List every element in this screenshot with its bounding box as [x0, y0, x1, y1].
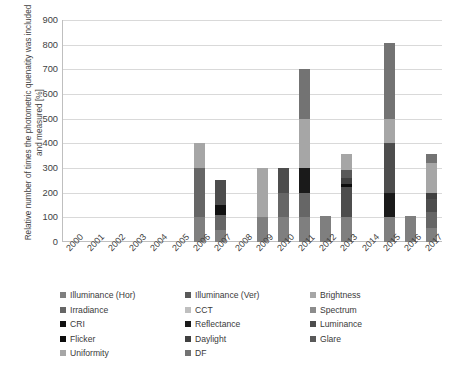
legend-item[interactable]: CCT [185, 305, 213, 315]
bar-segment[interactable] [426, 199, 437, 213]
bar-segment[interactable] [299, 168, 310, 193]
legend-label: Luminance [320, 319, 362, 329]
bar-segment[interactable] [384, 143, 395, 192]
legend-label: Irradiance [70, 305, 108, 315]
bar-segment[interactable] [194, 143, 205, 168]
legend-label: Glare [320, 334, 341, 344]
bar-segment[interactable] [426, 193, 437, 199]
bar-segment[interactable] [384, 119, 395, 144]
legend-label: CRI [70, 319, 85, 329]
legend-swatch-icon [60, 321, 66, 327]
bar-segment[interactable] [426, 154, 437, 163]
chart-legend: Illuminance (Hor)Illuminance (Ver)Bright… [60, 290, 445, 370]
legend-swatch-icon [185, 307, 191, 313]
y-tick-500: 500 [42, 114, 58, 124]
legend-swatch-icon [310, 307, 316, 313]
chart-root: Relative number of times the photometric… [0, 0, 451, 373]
legend-swatch-icon [310, 292, 316, 298]
y-tick-600: 600 [42, 89, 58, 99]
legend-swatch-icon [60, 292, 66, 298]
legend-swatch-icon [185, 336, 191, 342]
x-axis-tick-labels: 2000200120022003200420052006200720082009… [62, 244, 442, 286]
bar-segment[interactable] [341, 178, 352, 184]
bar-segment[interactable] [341, 184, 352, 186]
stacked-bar[interactable] [194, 143, 205, 242]
bar-segment[interactable] [194, 168, 205, 217]
legend-label: CCT [195, 305, 213, 315]
y-tick-800: 800 [42, 40, 58, 50]
legend-swatch-icon [310, 321, 316, 327]
bar-segment[interactable] [278, 193, 289, 218]
bar-segment[interactable] [299, 69, 310, 118]
stacked-bar[interactable] [341, 154, 352, 242]
bar-segment[interactable] [384, 193, 395, 218]
legend-label: Daylight [195, 334, 226, 344]
bar-series-container [62, 20, 442, 242]
y-tick-400: 400 [42, 138, 58, 148]
bar-segment[interactable] [299, 119, 310, 168]
y-tick-700: 700 [42, 64, 58, 74]
legend-label: Uniformity [70, 348, 109, 358]
y-tick-0: 0 [53, 237, 58, 247]
bar-segment[interactable] [426, 163, 437, 193]
stacked-bar[interactable] [384, 43, 395, 242]
legend-item[interactable]: Illuminance (Hor) [60, 290, 135, 300]
legend-item[interactable]: Flicker [60, 334, 95, 344]
bar-segment[interactable] [341, 154, 352, 170]
legend-swatch-icon [310, 336, 316, 342]
legend-item[interactable]: Luminance [310, 319, 362, 329]
legend-item[interactable]: DF [185, 348, 206, 358]
y-axis-tick-labels: 0100200300400500600700800900 [22, 14, 58, 248]
legend-item[interactable]: Illuminance (Ver) [185, 290, 259, 300]
legend-item[interactable]: Reflectance [185, 319, 240, 329]
legend-label: Illuminance (Hor) [70, 290, 135, 300]
legend-swatch-icon [185, 292, 191, 298]
bar-segment[interactable] [426, 212, 437, 228]
y-tick-300: 300 [42, 163, 58, 173]
stacked-bar[interactable] [426, 154, 437, 242]
bar-segment[interactable] [341, 170, 352, 177]
legend-item[interactable]: CRI [60, 319, 85, 329]
legend-label: DF [195, 348, 206, 358]
legend-swatch-icon [60, 336, 66, 342]
bar-segment[interactable] [257, 168, 268, 217]
bar-segment[interactable] [341, 187, 352, 218]
legend-item[interactable]: Glare [310, 334, 341, 344]
legend-label: Reflectance [195, 319, 240, 329]
y-tick-900: 900 [42, 15, 58, 25]
legend-label: Brightness [320, 290, 361, 300]
legend-swatch-icon [185, 321, 191, 327]
bar-segment[interactable] [384, 43, 395, 118]
legend-item[interactable]: Brightness [310, 290, 361, 300]
y-tick-200: 200 [42, 188, 58, 198]
legend-item[interactable]: Daylight [185, 334, 226, 344]
legend-label: Illuminance (Ver) [195, 290, 259, 300]
bar-segment[interactable] [215, 205, 226, 215]
bar-segment[interactable] [278, 168, 289, 193]
legend-item[interactable]: Irradiance [60, 305, 108, 315]
y-tick-100: 100 [42, 212, 58, 222]
legend-swatch-icon [60, 307, 66, 313]
bar-segment[interactable] [299, 193, 310, 218]
legend-swatch-icon [60, 350, 66, 356]
plot-area [62, 20, 442, 242]
bar-segment[interactable] [215, 180, 226, 205]
legend-item[interactable]: Spectrum [310, 305, 357, 315]
legend-label: Spectrum [320, 305, 357, 315]
legend-label: Flicker [70, 334, 95, 344]
stacked-bar[interactable] [257, 168, 268, 242]
stacked-bar[interactable] [299, 69, 310, 242]
stacked-bar[interactable] [278, 168, 289, 242]
bar-segment[interactable] [215, 215, 226, 230]
legend-swatch-icon [185, 350, 191, 356]
legend-item[interactable]: Uniformity [60, 348, 109, 358]
